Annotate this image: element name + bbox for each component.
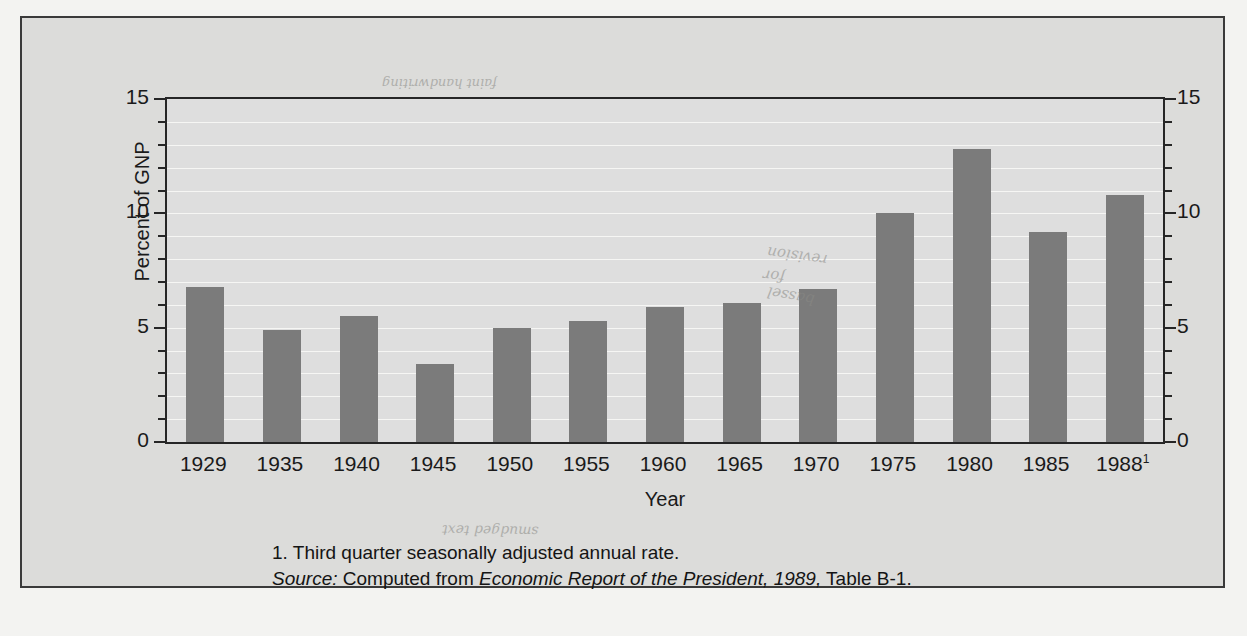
bar-1980 — [953, 149, 991, 442]
x-tick-label-1929: 1929 — [165, 452, 242, 476]
gridline — [167, 282, 1163, 283]
gridline — [167, 259, 1163, 260]
y-tick-left-4 — [158, 350, 167, 352]
plot-inner — [167, 99, 1163, 442]
y-tick-left-8 — [158, 258, 167, 260]
y-tick-right-15 — [1163, 98, 1176, 100]
x-tick-label-1970: 1970 — [778, 452, 855, 476]
gridline — [167, 191, 1163, 192]
y-tick-right-1 — [1163, 418, 1172, 420]
y-tick-right-14 — [1163, 121, 1172, 123]
bar-1965 — [723, 303, 761, 443]
y-tick-left-14 — [158, 121, 167, 123]
gridline — [167, 145, 1163, 146]
y-axis-label-left-0: 0 — [137, 428, 149, 452]
y-axis-label-left-15: 15 — [126, 85, 149, 109]
y-tick-right-0 — [1163, 441, 1176, 443]
bar-1955 — [569, 321, 607, 442]
y-tick-left-5 — [154, 327, 167, 329]
gridline — [167, 213, 1163, 214]
y-tick-right-3 — [1163, 372, 1172, 374]
y-tick-right-4 — [1163, 350, 1172, 352]
x-tick-label-1955: 1955 — [548, 452, 625, 476]
source-suffix: Table B-1. — [821, 568, 911, 589]
y-axis-label-left-10: 10 — [126, 199, 149, 223]
x-tick-label-1988: 19881 — [1084, 452, 1161, 476]
y-tick-left-13 — [158, 144, 167, 146]
x-tick-label-1980: 1980 — [931, 452, 1008, 476]
y-tick-left-0 — [154, 441, 167, 443]
y-tick-right-7 — [1163, 281, 1172, 283]
scan-smudge-bottom: smudged text — [442, 522, 539, 540]
y-tick-left-6 — [158, 304, 167, 306]
source-prefix: Computed from — [337, 568, 479, 589]
y-axis-label-right-10: 10 — [1177, 199, 1200, 223]
y-tick-right-11 — [1163, 190, 1172, 192]
source-line: Source: Computed from Economic Report of… — [272, 566, 912, 592]
bar-1945 — [416, 364, 454, 442]
y-axis-label-right-15: 15 — [1177, 85, 1200, 109]
y-tick-right-5 — [1163, 327, 1176, 329]
x-tick-label-1975: 1975 — [855, 452, 932, 476]
y-tick-right-2 — [1163, 395, 1172, 397]
scan-smudge-top: faint handwriting — [382, 76, 497, 91]
bar-1985 — [1029, 232, 1067, 442]
plot-area: revision for bassel — [165, 97, 1165, 444]
x-tick-label-1960: 1960 — [625, 452, 702, 476]
y-axis-label-right-5: 5 — [1177, 314, 1189, 338]
x-tick-label-1935: 1935 — [242, 452, 319, 476]
y-tick-left-10 — [154, 212, 167, 214]
gridline — [167, 305, 1163, 306]
y-tick-right-8 — [1163, 258, 1172, 260]
y-tick-left-7 — [158, 281, 167, 283]
y-tick-left-9 — [158, 235, 167, 237]
y-tick-left-3 — [158, 372, 167, 374]
bar-1929 — [186, 287, 224, 443]
figure-screenshot: faint handwriting smudged text Percent o… — [0, 0, 1247, 636]
source-title: Economic Report of the President, 1989, — [479, 568, 821, 589]
y-tick-right-13 — [1163, 144, 1172, 146]
y-tick-left-11 — [158, 190, 167, 192]
y-tick-right-12 — [1163, 167, 1172, 169]
bar-1975 — [876, 213, 914, 442]
bar-1940 — [340, 316, 378, 442]
source-label: Source: — [272, 568, 337, 589]
footnote-line: 1. Third quarter seasonally adjusted ann… — [272, 540, 912, 566]
y-tick-left-1 — [158, 418, 167, 420]
x-tick-label-1940: 1940 — [318, 452, 395, 476]
x-tick-label-1950: 1950 — [472, 452, 549, 476]
bar-1988 — [1106, 195, 1144, 442]
y-tick-left-12 — [158, 167, 167, 169]
x-tick-label-1985: 1985 — [1008, 452, 1085, 476]
y-tick-right-10 — [1163, 212, 1176, 214]
bar-1950 — [493, 328, 531, 442]
x-tick-label-1965: 1965 — [701, 452, 778, 476]
y-tick-right-6 — [1163, 304, 1172, 306]
bar-1960 — [646, 307, 684, 442]
gridline — [167, 168, 1163, 169]
x-axis-title: Year — [165, 488, 1165, 511]
gridline — [167, 122, 1163, 123]
y-tick-right-9 — [1163, 235, 1172, 237]
y-axis-label-right-0: 0 — [1177, 428, 1189, 452]
x-tick-label-1945: 1945 — [395, 452, 472, 476]
bar-1935 — [263, 330, 301, 442]
y-axis-label-left-5: 5 — [137, 314, 149, 338]
y-tick-left-15 — [154, 98, 167, 100]
figure-frame: faint handwriting smudged text Percent o… — [20, 16, 1225, 588]
bar-1970 — [799, 289, 837, 442]
y-tick-left-2 — [158, 395, 167, 397]
gridline — [167, 236, 1163, 237]
figure-notes: 1. Third quarter seasonally adjusted ann… — [272, 540, 912, 592]
